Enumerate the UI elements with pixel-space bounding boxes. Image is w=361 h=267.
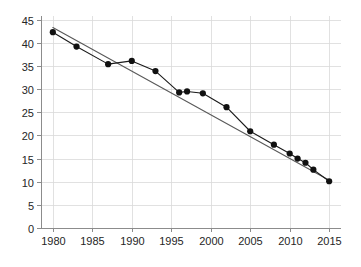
y-axis-tick-labels: 051015202530354045 — [22, 15, 34, 235]
observed-line-path — [53, 32, 329, 181]
x-axis-tick-label: 1990 — [120, 235, 144, 247]
data-point-marker — [302, 160, 308, 166]
data-point-marker — [200, 90, 206, 96]
data-point-marker — [184, 88, 190, 94]
data-point-marker — [294, 155, 300, 161]
x-axis-tick-label: 1985 — [80, 235, 104, 247]
x-axis-tick-label: 1995 — [159, 235, 183, 247]
data-point-marker — [129, 58, 135, 64]
data-point-marker — [271, 142, 277, 148]
y-axis-tick-label: 30 — [22, 84, 34, 96]
data-point-marker — [50, 29, 56, 35]
trend-line-series — [53, 28, 329, 181]
y-axis-tick-label: 40 — [22, 38, 34, 50]
y-axis-tick-label: 20 — [22, 130, 34, 142]
trend-line-path — [53, 28, 329, 181]
axes — [41, 16, 341, 229]
data-point-marker — [287, 150, 293, 156]
y-axis-tick-label: 5 — [28, 200, 34, 212]
x-axis-tick-label: 2000 — [199, 235, 223, 247]
data-point-marker — [326, 178, 332, 184]
data-point-marker — [105, 61, 111, 67]
data-point-marker — [152, 68, 158, 74]
x-axis-tick-label: 2015 — [317, 235, 341, 247]
x-axis-tick-label: 1980 — [41, 235, 65, 247]
observed-series — [53, 32, 329, 181]
y-axis-tick-label: 0 — [28, 223, 34, 235]
y-axis-tick-label: 10 — [22, 177, 34, 189]
chart-container: 051015202530354045 198019851990199520002… — [0, 0, 361, 267]
data-point-marker — [310, 167, 316, 173]
x-axis-tick-label: 2005 — [238, 235, 262, 247]
y-axis-tick-label: 35 — [22, 61, 34, 73]
y-axis-tick-label: 25 — [22, 107, 34, 119]
y-axis-tick-label: 45 — [22, 15, 34, 27]
line-chart: 051015202530354045 198019851990199520002… — [0, 0, 361, 267]
tick-marks — [37, 21, 330, 233]
x-axis-tick-labels: 19801985199019952000200520102015 — [41, 235, 341, 247]
data-point-marker — [223, 104, 229, 110]
data-point-marker — [73, 43, 79, 49]
data-point-marker — [176, 89, 182, 95]
data-point-marker — [247, 128, 253, 134]
y-axis-tick-label: 15 — [22, 154, 34, 166]
x-axis-tick-label: 2010 — [278, 235, 302, 247]
gridlines — [41, 16, 341, 229]
